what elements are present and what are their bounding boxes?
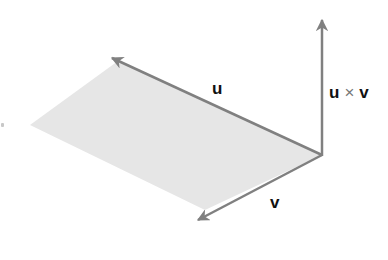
label-u-cross-v: u×v (329, 84, 369, 101)
label-u-cross-v-right: v (359, 83, 368, 102)
cross-operator: × (344, 83, 354, 102)
label-u-text: u (212, 79, 222, 98)
scan-speck (1, 123, 4, 127)
label-v: v (270, 194, 279, 211)
cross-product-diagram (0, 0, 388, 260)
label-u-cross-v-left: u (329, 83, 339, 102)
label-u: u (212, 80, 222, 97)
label-v-text: v (270, 193, 279, 212)
